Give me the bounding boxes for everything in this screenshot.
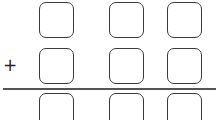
digit-box-row2-col3[interactable] <box>167 48 202 84</box>
digit-box-row2-col1[interactable] <box>39 48 74 84</box>
digit-box-row1-col2[interactable] <box>109 2 144 38</box>
plus-sign: + <box>3 57 17 74</box>
digit-box-sum-col2[interactable] <box>109 93 144 120</box>
sum-line <box>3 88 216 90</box>
digit-box-row2-col2[interactable] <box>109 48 144 84</box>
digit-box-row1-col3[interactable] <box>167 2 202 38</box>
digit-box-sum-col3[interactable] <box>167 93 202 120</box>
digit-box-row1-col1[interactable] <box>39 2 74 38</box>
digit-box-sum-col1[interactable] <box>39 93 74 120</box>
